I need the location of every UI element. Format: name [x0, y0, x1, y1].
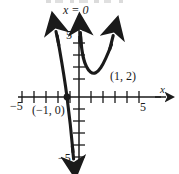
- math-graph-figure: x = 0 y x 5 −5 −5 5 (1, 2) (−1, 0): [0, 0, 179, 174]
- x-axis-tick-label-neg5: −5: [10, 100, 23, 112]
- point-label-root: (−1, 0): [32, 104, 65, 116]
- x-axis-label: x: [160, 84, 165, 95]
- point-label-vertex: (1, 2): [110, 70, 136, 82]
- curve-parabola-branch: [80, 33, 113, 74]
- graph-canvas: [0, 0, 179, 174]
- x-axis-tick-label-5: 5: [140, 101, 146, 113]
- y-axis-tick-label-5: 5: [66, 29, 72, 41]
- y-axis-tick-label-neg5: −5: [58, 152, 71, 164]
- y-axis-label: y: [74, 20, 79, 31]
- marked-point-root: [64, 94, 71, 101]
- asymptote-label: x = 0: [63, 4, 88, 16]
